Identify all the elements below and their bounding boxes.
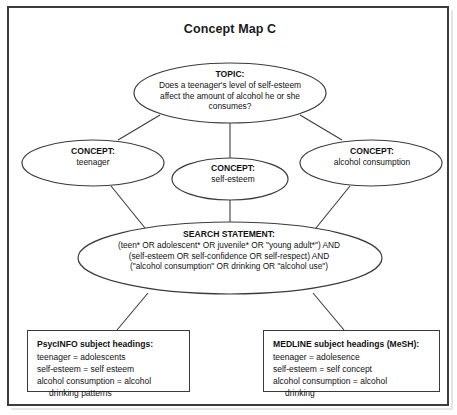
psycinfo-mapping-2: self-esteem = self esteem <box>37 363 181 375</box>
medline-headings-box: MEDLINE subject headings (MeSH): teenage… <box>263 330 440 392</box>
concept-map-canvas: Concept Map C TOPIC: Does a teenager's <box>0 0 457 415</box>
psycinfo-mapping-3-continuation: drinking patterns <box>37 387 181 399</box>
medline-heading-title: MEDLINE subject headings (MeSH): <box>273 338 431 350</box>
psycinfo-headings-box: PsycINFO subject headings: teenager = ad… <box>27 330 190 392</box>
psycinfo-mapping-1: teenager = adolescents <box>37 351 181 363</box>
psycinfo-mapping-3: alcohol consumption = alcohol <box>37 375 181 387</box>
medline-mapping-1: teenager = adolesence <box>273 351 431 363</box>
psycinfo-heading-title: PsycINFO subject headings: <box>37 338 181 350</box>
medline-mapping-2: self-esteem = self concept <box>273 363 431 375</box>
medline-mapping-3-continuation: drinking <box>273 387 431 399</box>
medline-mapping-3: alcohol consumption = alcohol <box>273 375 431 387</box>
page-title: Concept Map C <box>9 22 451 36</box>
